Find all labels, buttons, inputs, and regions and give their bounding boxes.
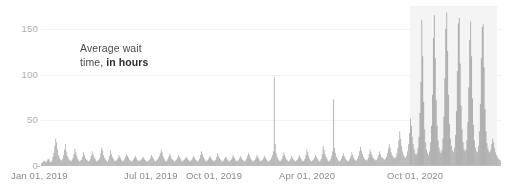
average-wait-time-chart: 050100150 Jan 01, 2019Jul 01, 2019Oct 01… xyxy=(0,0,508,194)
annotation-line-2-plain: time, xyxy=(80,56,106,68)
y-tick-label-50: 50 xyxy=(4,115,38,125)
y-tick-label-150: 150 xyxy=(4,24,38,34)
y-tick-label-100: 100 xyxy=(4,70,38,80)
annotation-line-2-emphasis: in hours xyxy=(106,56,148,68)
plot-area xyxy=(41,6,501,166)
x-tick-label-3: Apr 01, 2020 xyxy=(279,171,335,181)
bar-series-average-wait-time xyxy=(41,6,501,166)
x-tick-label-1: Jul 01, 2019 xyxy=(124,171,178,181)
x-tick-label-0: Jan 01, 2019 xyxy=(11,171,68,181)
x-axis: Jan 01, 2019Jul 01, 2019Oct 01, 2019Apr … xyxy=(0,168,508,184)
chart-annotation: Average wait time, in hours xyxy=(80,41,149,69)
annotation-line-2: time, in hours xyxy=(80,55,149,69)
annotation-line-1: Average wait xyxy=(80,41,149,55)
x-tick-label-2: Oct 01, 2019 xyxy=(186,171,242,181)
x-tick-label-4: Oct 01, 2020 xyxy=(387,171,443,181)
x-axis-baseline xyxy=(41,165,501,166)
y-tick-dash-0 xyxy=(36,166,40,167)
y-axis: 050100150 xyxy=(0,0,38,194)
